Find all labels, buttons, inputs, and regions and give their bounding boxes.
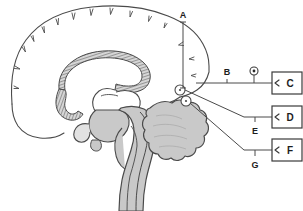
- leader-label-a: A: [180, 10, 187, 20]
- answer-box-d-label: D: [286, 112, 293, 123]
- leader-label-g: G: [251, 160, 258, 170]
- brain-diagram-svg: A B E: [0, 0, 303, 211]
- diagram-canvas: A B E: [0, 0, 303, 211]
- answer-box-c-label: C: [286, 78, 293, 89]
- pointer-circle-lower: [181, 96, 191, 106]
- answer-box-f-label: F: [287, 145, 293, 156]
- answer-box-c[interactable]: C: [272, 72, 302, 94]
- leader-label-b: B: [224, 67, 231, 77]
- cerebellum: [143, 100, 209, 160]
- answer-box-f[interactable]: F: [272, 139, 302, 161]
- answer-box-d[interactable]: D: [272, 106, 302, 128]
- circled-dot-marker: [250, 67, 258, 75]
- leader-label-e: E: [252, 126, 258, 136]
